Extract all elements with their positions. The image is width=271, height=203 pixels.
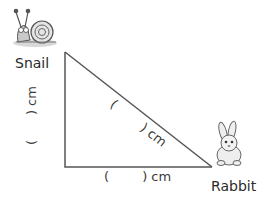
horizontal-side-label: ( ) cm — [104, 169, 171, 184]
rabbit-icon — [217, 120, 241, 165]
snail-label: Snail — [15, 55, 49, 71]
rabbit-label: Rabbit — [211, 178, 256, 194]
triangle-hypotenuse — [65, 52, 212, 167]
triangle-diagram: Snail Rabbit ( ) cm ( ) cm ( ) cm — [0, 0, 271, 203]
snail-icon — [13, 9, 57, 47]
vertical-side-label: ( ) cm — [24, 86, 39, 145]
